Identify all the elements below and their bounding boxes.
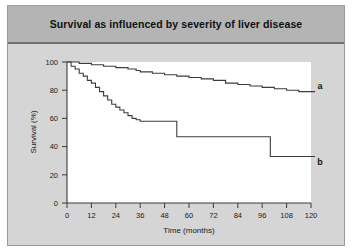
y-tick-label-60: 60 (50, 114, 58, 123)
x-tick-label-72: 72 (209, 211, 217, 220)
x-tick-label-120: 120 (305, 211, 318, 220)
y-axis-ticks (62, 62, 67, 203)
x-tick-label-36: 36 (136, 211, 144, 220)
curve-b-label: b (317, 157, 323, 167)
plot-area: 0 20 40 60 80 100 0 12 (8, 44, 344, 247)
y-tick-label-80: 80 (50, 86, 58, 95)
x-tick-label-96: 96 (258, 211, 266, 220)
x-tick-label-24: 24 (112, 211, 120, 220)
x-tick-label-60: 60 (185, 211, 193, 220)
x-tick-label-0: 0 (65, 211, 69, 220)
x-tick-label-84: 84 (234, 211, 242, 220)
plot-background (67, 62, 311, 203)
x-tick-label-12: 12 (87, 211, 95, 220)
x-axis-ticks (67, 203, 311, 208)
y-tick-label-0: 0 (54, 199, 58, 208)
y-tick-label-20: 20 (50, 171, 58, 180)
figure-title-bar: Survival as influenced by severity of li… (8, 6, 344, 44)
figure-title: Survival as influenced by severity of li… (50, 18, 303, 30)
x-axis-title: Time (months) (163, 226, 215, 235)
figure-panel: Survival as influenced by severity of li… (7, 5, 345, 246)
curve-a-label: a (317, 81, 323, 91)
y-axis-title: Survival (%) (29, 110, 38, 153)
y-tick-label-100: 100 (45, 58, 58, 67)
survival-curve-chart: 0 20 40 60 80 100 0 12 (8, 44, 346, 247)
x-tick-label-48: 48 (160, 211, 168, 220)
x-tick-label-108: 108 (280, 211, 293, 220)
y-tick-label-40: 40 (50, 142, 58, 151)
